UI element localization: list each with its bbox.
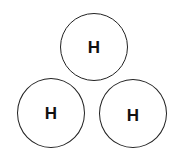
diagram-canvas: H H H [0,0,176,163]
atom-label: H [88,39,100,56]
atom-top: H [60,13,128,81]
atom-label: H [45,105,57,122]
atom-bottom-right: H [99,79,167,148]
atom-bottom-left: H [17,78,85,148]
atom-label: H [127,104,139,124]
